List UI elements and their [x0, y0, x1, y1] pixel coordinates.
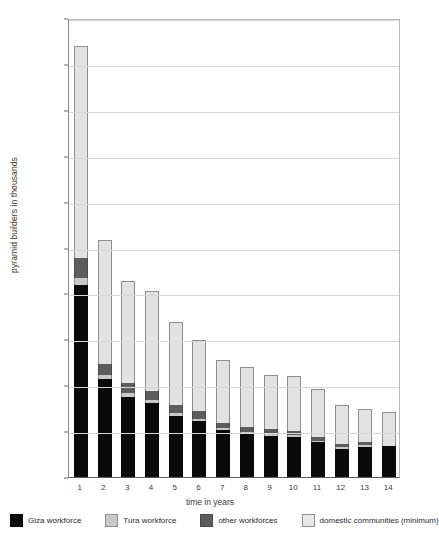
y-tick-mark [64, 19, 68, 20]
legend-item[interactable]: domestic communities (minimum) [302, 514, 439, 527]
gridline [69, 112, 399, 113]
bar-segment-giza [145, 403, 159, 477]
legend-label: domestic communities (minimum) [320, 516, 439, 525]
bar-segment-giza [287, 437, 301, 477]
bar-segment-other [192, 411, 206, 418]
gridline [69, 387, 399, 388]
bar-segment-dom [335, 405, 349, 444]
bar-segment-other [74, 258, 88, 278]
bar-segment-giza [311, 442, 325, 477]
bar-column[interactable] [121, 281, 135, 477]
bar-segment-dom [121, 281, 135, 383]
y-tick-mark [64, 248, 68, 249]
legend-label: Giza workforce [28, 516, 81, 525]
gridline [69, 204, 399, 205]
bars-layer [69, 20, 399, 477]
y-axis-title: pyramid builders in thousands [9, 115, 19, 315]
gridline [69, 66, 399, 67]
bar-column[interactable] [240, 367, 254, 477]
bar-segment-dom [169, 322, 183, 405]
x-tick-label: 14 [373, 483, 403, 492]
bar-segment-giza [192, 421, 206, 477]
plot-area [68, 19, 400, 478]
bar-column[interactable] [145, 291, 159, 477]
bar-segment-dom [98, 240, 112, 364]
bar-segment-dom [216, 360, 230, 423]
gridline [69, 341, 399, 342]
x-axis-title: time in years [0, 497, 420, 507]
bar-column[interactable] [264, 375, 278, 477]
gridline [69, 20, 399, 21]
bar-segment-giza [358, 447, 372, 477]
bar-column[interactable] [382, 412, 396, 477]
bar-column[interactable] [216, 360, 230, 477]
bar-segment-dom [74, 46, 88, 258]
bar-segment-other [121, 383, 135, 393]
bar-segment-dom [264, 375, 278, 429]
bar-segment-tura [74, 278, 88, 285]
y-tick-mark [64, 340, 68, 341]
bar-column[interactable] [358, 409, 372, 477]
bar-segment-giza [382, 446, 396, 477]
bar-segment-giza [335, 449, 349, 477]
y-tick-mark [64, 478, 68, 479]
bar-segment-dom [358, 409, 372, 442]
bar-column[interactable] [169, 322, 183, 477]
bar-segment-giza [240, 434, 254, 477]
bar-segment-giza [216, 430, 230, 477]
bar-column[interactable] [74, 46, 88, 477]
bar-column[interactable] [98, 240, 112, 477]
y-tick-mark [64, 156, 68, 157]
bar-segment-other [98, 364, 112, 375]
gridline [69, 433, 399, 434]
bar-segment-other [169, 405, 183, 413]
bar-column[interactable] [335, 405, 349, 478]
bar-segment-dom [287, 376, 301, 431]
y-tick-mark [64, 110, 68, 111]
bar-segment-dom [382, 412, 396, 446]
legend-item[interactable]: other workforces [200, 514, 277, 527]
bar-column[interactable] [287, 376, 301, 477]
legend-item[interactable]: Giza workforce [10, 514, 81, 527]
bar-column[interactable] [192, 340, 206, 477]
bar-segment-giza [74, 285, 88, 477]
legend-label: Tura workforce [123, 516, 176, 525]
legend-swatch-icon [105, 514, 118, 527]
bar-segment-dom [192, 340, 206, 412]
chart-legend: Giza workforceTura workforceother workfo… [10, 514, 414, 527]
bar-segment-giza [98, 379, 112, 477]
legend-swatch-icon [200, 514, 213, 527]
gridline [69, 295, 399, 296]
gridline [69, 158, 399, 159]
legend-label: other workforces [218, 516, 277, 525]
y-tick-mark [64, 64, 68, 65]
bar-segment-giza [264, 436, 278, 477]
y-tick-mark [64, 386, 68, 387]
y-tick-mark [64, 432, 68, 433]
bar-segment-dom [240, 367, 254, 428]
y-tick-mark [64, 202, 68, 203]
bar-segment-dom [311, 389, 325, 437]
y-tick-mark [64, 294, 68, 295]
legend-item[interactable]: Tura workforce [105, 514, 176, 527]
legend-swatch-icon [302, 514, 315, 527]
bar-segment-giza [121, 397, 135, 477]
legend-swatch-icon [10, 514, 23, 527]
bar-segment-giza [169, 416, 183, 478]
gridline [69, 250, 399, 251]
bar-segment-other [145, 391, 159, 400]
